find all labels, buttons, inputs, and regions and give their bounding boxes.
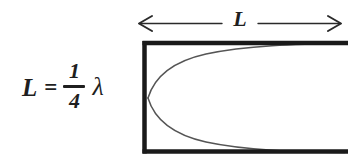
tube-svg — [136, 40, 348, 154]
tube-diagram — [136, 40, 348, 154]
wave-lower-envelope — [148, 98, 345, 153]
wave-upper-envelope — [148, 44, 345, 99]
formula-lambda-symbol: λ — [92, 74, 103, 100]
formula-expression: L = 1 4 λ — [22, 58, 132, 116]
dimension-arrow-svg — [136, 8, 344, 40]
figure-root: L = 1 4 λ L — [0, 0, 350, 156]
fraction-numerator: 1 — [67, 60, 82, 83]
formula-lhs-symbol: L — [22, 75, 37, 100]
fraction-denominator: 4 — [67, 90, 82, 113]
dimension-arrow: L — [136, 8, 344, 40]
formula-equals-sign: = — [44, 76, 57, 99]
formula-fraction: 1 4 — [63, 60, 85, 113]
